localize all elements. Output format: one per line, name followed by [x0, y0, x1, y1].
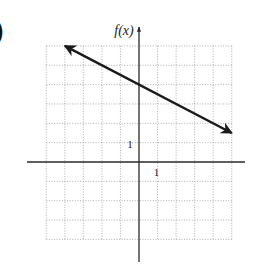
plot-area: [65, 46, 232, 133]
function-line: [65, 46, 232, 133]
function-graph: f(x)11: [0, 0, 257, 273]
x-unit-tick-label: 1: [154, 166, 160, 178]
y-unit-tick-label: 1: [127, 138, 133, 150]
axes: [27, 27, 245, 262]
y-axis-label: f(x): [114, 23, 134, 39]
axis-labels: f(x)11: [114, 23, 159, 178]
